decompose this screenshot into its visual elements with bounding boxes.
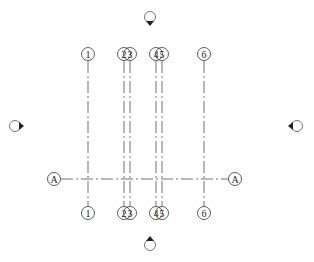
grid-label: A xyxy=(50,174,58,185)
grid-label: 3 xyxy=(128,208,133,219)
elevation-marker-east-icon[interactable] xyxy=(288,121,303,132)
grid-label: A xyxy=(231,174,239,185)
grid-line-A[interactable]: AA xyxy=(48,173,242,186)
grid-label: 2 xyxy=(122,49,127,60)
grid-line-5[interactable]: 55 xyxy=(156,48,169,220)
grid-bubble-A-h[interactable]: A xyxy=(48,173,61,186)
grid-layer: 112233445566AA xyxy=(48,48,242,220)
grid-line-1[interactable]: 11 xyxy=(82,48,95,220)
grid-label: 1 xyxy=(86,49,91,60)
grid-bubble-1-bottom[interactable]: 1 xyxy=(82,207,95,220)
grid-label: 4 xyxy=(154,49,159,60)
grid-label: 5 xyxy=(160,49,165,60)
grid-line-2[interactable]: 22 xyxy=(118,48,131,220)
grid-label: 6 xyxy=(202,208,207,219)
grid-bubble-6-top[interactable]: 6 xyxy=(198,48,211,61)
grid-label: 6 xyxy=(202,49,207,60)
elevation-marker-north-icon[interactable] xyxy=(145,12,156,27)
grid-label: 4 xyxy=(154,208,159,219)
grid-bubble-1-top[interactable]: 1 xyxy=(82,48,95,61)
grid-bubble-A-h[interactable]: A xyxy=(229,173,242,186)
grid-label: 5 xyxy=(160,208,165,219)
grid-line-4[interactable]: 44 xyxy=(150,48,163,220)
elevation-marker-west-icon[interactable] xyxy=(10,121,25,132)
floor-plan-canvas[interactable]: 112233445566AA xyxy=(0,0,314,262)
elevation-marker-south-icon[interactable] xyxy=(145,236,156,251)
grid-line-3[interactable]: 33 xyxy=(124,48,137,220)
grid-label: 2 xyxy=(122,208,127,219)
grid-label: 3 xyxy=(128,49,133,60)
grid-bubble-6-bottom[interactable]: 6 xyxy=(198,207,211,220)
grid-line-6[interactable]: 66 xyxy=(198,48,211,220)
grid-label: 1 xyxy=(86,208,91,219)
